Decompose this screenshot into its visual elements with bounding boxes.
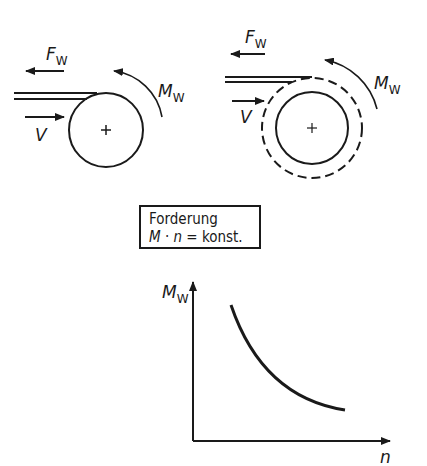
requirement-title: Forderung: [149, 210, 259, 228]
force-label: FW: [245, 27, 267, 51]
moment-label: MW: [374, 73, 401, 97]
moment-arrow-icon: [325, 60, 377, 109]
hyperbola-curve: [231, 305, 345, 410]
formula-rest: = konst.: [182, 228, 243, 246]
torque-speed-chart: MW n: [162, 282, 391, 466]
center-cross-icon: [101, 125, 111, 135]
x-axis-label: n: [380, 447, 391, 466]
velocity-label: V: [240, 107, 253, 127]
velocity-label: V: [35, 125, 48, 145]
formula-n: n: [174, 228, 183, 246]
requirement-box: Forderung M · n = konst.: [139, 205, 261, 249]
center-cross-icon: [307, 123, 317, 133]
left-roller-figure: FW V MW: [14, 44, 185, 167]
y-axis-label: MW: [162, 282, 189, 306]
formula-dot: ·: [161, 228, 174, 246]
force-label: FW: [46, 44, 68, 68]
right-roller-figure: FW V MW: [225, 27, 401, 178]
requirement-formula: M · n = konst.: [149, 228, 259, 246]
formula-m: M: [149, 228, 161, 246]
moment-label: MW: [158, 81, 185, 105]
